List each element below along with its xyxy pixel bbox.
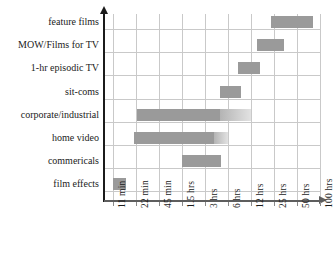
x-axis-tick-mark [251,202,252,206]
x-axis-tick-label: 3 hrs [209,188,219,208]
y-axis-category-label: commericals [0,155,99,166]
x-axis-tick-label: 100 hrs [324,178,334,208]
bar-solid-segment [182,155,221,167]
x-axis-tick-label: 22 min [140,180,150,208]
y-axis-category-label: MOW/Films for TV [0,39,99,50]
y-axis-labels: feature filmsMOW/Films for TV1-hr episod… [0,0,100,269]
y-axis-category-label: 1-hr episodic TV [0,62,99,73]
x-axis-tick-label: 12 hrs [255,183,265,208]
gridline-vertical [205,14,206,200]
bar-solid-segment [220,86,241,98]
gridline-vertical [159,14,160,200]
y-axis-category-label: home video [0,132,99,143]
x-axis-tick-mark [320,202,321,206]
gridline-vertical [320,14,321,200]
gridline-vertical [297,14,298,200]
gridline-vertical [136,14,137,200]
gridline-horizontal [105,52,321,53]
x-axis-tick-mark [228,202,229,206]
x-axis-tick-label: 1.5 hrs [186,181,196,208]
bar-solid-segment [238,62,260,74]
gridline-horizontal [105,75,321,76]
gridline-horizontal [105,168,321,169]
y-axis-line [103,12,105,202]
bar [220,86,241,98]
bar [271,16,314,28]
y-axis-category-label: feature films [0,16,99,27]
bar-fade-segment [214,132,228,144]
x-axis-tick-label: 11 min [117,180,127,208]
y-axis-category-label: film effects [0,178,99,189]
x-axis-tick-label: 45 min [163,180,173,208]
bar [182,155,221,167]
bar [134,132,228,144]
y-axis-arrow-icon [100,6,108,14]
gridline-horizontal [105,122,321,123]
y-axis-category-label: corporate/industrial [0,109,99,120]
x-axis-tick-mark [297,202,298,206]
gridline-vertical [251,14,252,200]
plot-area [105,14,321,200]
bar [238,62,260,74]
gridline-horizontal [105,29,321,30]
gridline-vertical [228,14,229,200]
x-axis-tick-label: 25 hrs [278,183,288,208]
bar-solid-segment [257,39,285,51]
bar [257,39,285,51]
x-axis-tick-mark [274,202,275,206]
x-axis-tick-label: 6 hrs [232,188,242,208]
x-axis-tick-label: 50 hrs [301,183,311,208]
gridline-horizontal [105,145,321,146]
bar-solid-segment [271,16,314,28]
gridline-vertical [113,14,114,200]
gridline-vertical [182,14,183,200]
chart-container: feature filmsMOW/Films for TV1-hr episod… [0,0,336,269]
gridline-horizontal [105,99,321,100]
bar [137,109,251,121]
x-axis-tick-mark [113,202,114,206]
bar-fade-segment [220,109,251,121]
x-axis-tick-mark [136,202,137,206]
x-axis-tick-mark [159,202,160,206]
x-axis-tick-mark [205,202,206,206]
bar-solid-segment [134,132,214,144]
x-axis-tick-mark [182,202,183,206]
y-axis-category-label: sit-coms [0,86,99,97]
bar-solid-segment [137,109,220,121]
